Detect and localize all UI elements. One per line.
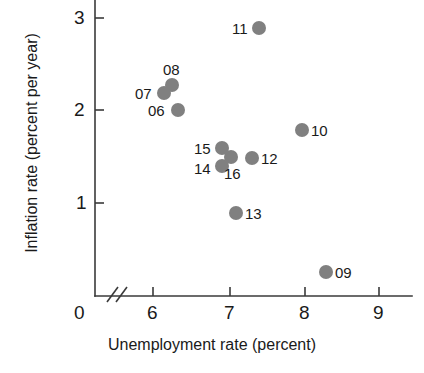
y-tick-label-3: 3 bbox=[74, 8, 85, 27]
point-label-07: 07 bbox=[135, 86, 152, 101]
point-label-12: 12 bbox=[261, 151, 278, 166]
data-point-06 bbox=[171, 103, 185, 117]
x-tick-label-8: 8 bbox=[299, 303, 310, 322]
y-tick-label-0: 0 bbox=[74, 303, 85, 322]
x-axis-title: Unemployment rate (percent) bbox=[0, 336, 424, 354]
x-tick-label-6: 6 bbox=[147, 303, 158, 322]
x-tick-label-9: 9 bbox=[373, 303, 384, 322]
y-tick-label-1: 1 bbox=[76, 193, 87, 212]
point-label-15: 15 bbox=[194, 141, 211, 156]
x-tick-label-7: 7 bbox=[224, 303, 235, 322]
point-label-14: 14 bbox=[194, 161, 211, 176]
axis-break-slash-2 bbox=[116, 287, 127, 302]
axis-break-slash-1 bbox=[107, 287, 118, 302]
data-point-08 bbox=[165, 78, 179, 92]
point-label-06: 06 bbox=[148, 103, 165, 118]
point-label-11: 11 bbox=[232, 21, 248, 36]
point-label-08: 08 bbox=[163, 62, 180, 77]
data-point-13 bbox=[229, 206, 243, 220]
data-point-16 bbox=[224, 150, 238, 164]
plot-area bbox=[0, 0, 424, 373]
point-label-10: 10 bbox=[311, 123, 328, 138]
data-point-11 bbox=[252, 21, 266, 35]
data-point-09 bbox=[319, 265, 333, 279]
data-point-12 bbox=[245, 151, 259, 165]
point-label-13: 13 bbox=[245, 206, 262, 221]
point-label-09: 09 bbox=[335, 265, 352, 280]
point-label-16: 16 bbox=[224, 166, 241, 181]
y-tick-label-2: 2 bbox=[74, 100, 85, 119]
y-axis-title: Inflation rate (percent per year) bbox=[23, 15, 41, 271]
scatter-chart: 3 2 1 0 6 7 8 9 11 08 07 06 10 15 12 14 … bbox=[0, 0, 424, 373]
data-point-10 bbox=[295, 123, 309, 137]
